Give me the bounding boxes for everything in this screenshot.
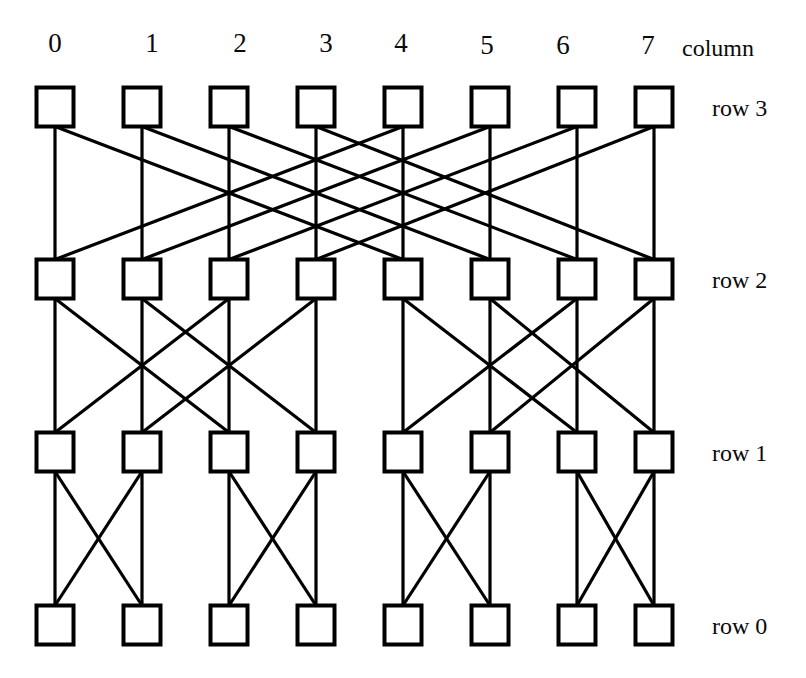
network-node-r0c5[interactable] (472, 606, 509, 645)
network-node-r0c4[interactable] (385, 606, 422, 645)
network-node-r3c6[interactable] (559, 88, 596, 127)
network-node-r0c7[interactable] (636, 606, 673, 645)
network-node-r1c6[interactable] (559, 433, 596, 472)
network-node-r1c0[interactable] (37, 433, 74, 472)
column-label-0: 0 (48, 30, 62, 57)
column-label-3: 3 (319, 30, 333, 57)
network-node-r2c3[interactable] (298, 260, 335, 299)
row-label-0: row 0 (712, 614, 767, 638)
network-node-r0c2[interactable] (211, 606, 248, 645)
row-label-1: row 1 (712, 441, 767, 465)
network-node-r1c7[interactable] (636, 433, 673, 472)
network-node-r0c3[interactable] (298, 606, 335, 645)
network-node-r1c2[interactable] (211, 433, 248, 472)
column-axis-caption: column (682, 36, 754, 60)
network-node-r2c2[interactable] (211, 260, 248, 299)
network-node-r0c1[interactable] (124, 606, 161, 645)
network-node-r2c7[interactable] (636, 260, 673, 299)
network-node-r1c3[interactable] (298, 433, 335, 472)
edges-layer (55, 127, 654, 606)
network-node-r3c0[interactable] (37, 88, 74, 127)
network-node-r3c7[interactable] (636, 88, 673, 127)
network-node-r3c2[interactable] (211, 88, 248, 127)
butterfly-network-figure: 0 1 2 3 4 5 6 7 column row 3 row 2 row 1… (0, 0, 806, 678)
row-label-3: row 3 (712, 96, 767, 120)
network-node-r1c4[interactable] (385, 433, 422, 472)
column-label-6: 6 (556, 32, 570, 59)
column-label-1: 1 (145, 30, 159, 57)
network-node-r2c1[interactable] (124, 260, 161, 299)
column-label-4: 4 (394, 30, 408, 57)
network-node-r3c1[interactable] (124, 88, 161, 127)
network-node-r1c5[interactable] (472, 433, 509, 472)
row-label-2: row 2 (712, 268, 767, 292)
column-label-7: 7 (641, 32, 655, 59)
network-node-r0c0[interactable] (37, 606, 74, 645)
network-node-r0c6[interactable] (559, 606, 596, 645)
network-node-r2c0[interactable] (37, 260, 74, 299)
network-node-r1c1[interactable] (124, 433, 161, 472)
column-label-5: 5 (480, 32, 494, 59)
network-node-r2c6[interactable] (559, 260, 596, 299)
network-node-r3c5[interactable] (472, 88, 509, 127)
network-node-r2c4[interactable] (385, 260, 422, 299)
column-label-2: 2 (233, 30, 247, 57)
network-node-r2c5[interactable] (472, 260, 509, 299)
network-node-r3c4[interactable] (385, 88, 422, 127)
network-graph (0, 0, 806, 678)
network-node-r3c3[interactable] (298, 88, 335, 127)
